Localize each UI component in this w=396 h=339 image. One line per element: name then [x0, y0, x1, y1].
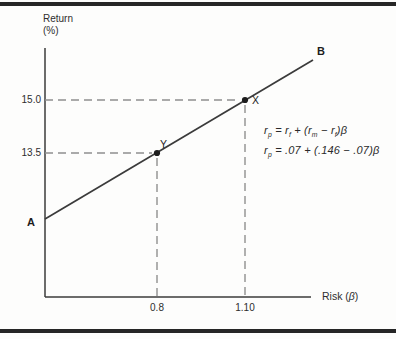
- x-tick-1.10: 1.10: [230, 302, 260, 313]
- chart-canvas: [0, 0, 396, 339]
- equation-capm-numeric: rp = .07 + (.146 − .07)β: [264, 144, 380, 158]
- y-axis-title: Return (%): [43, 13, 73, 37]
- x-axis-title-pre: Risk (: [322, 290, 349, 302]
- y-axis-title-line1: Return: [43, 13, 73, 25]
- eq2-body: = .07 + (.146 − .07): [272, 144, 373, 156]
- eq1-close-beta: )β: [337, 124, 347, 136]
- x-axis-title: Risk (β): [322, 290, 358, 302]
- point-y-dot: [154, 150, 160, 156]
- y-tick-13.5: 13.5: [11, 147, 41, 158]
- security-market-line: [45, 60, 313, 219]
- point-b-label: B: [317, 45, 325, 57]
- capm-figure: Return (%) 15.0 13.5 0.8 1.10 A B Y X rp…: [0, 0, 396, 339]
- point-x-dot: [242, 97, 248, 103]
- x-axis-title-post: ): [355, 290, 359, 302]
- x-tick-0.8: 0.8: [142, 302, 172, 313]
- eq1-minus: −: [318, 124, 331, 136]
- eq1-plus-paren: + (: [291, 124, 308, 136]
- point-a-label: A: [27, 216, 35, 228]
- equation-capm-general: rp = rf + (rm − rf)β: [264, 124, 347, 138]
- point-y-label: Y: [160, 138, 167, 150]
- eq2-beta: β: [373, 144, 379, 156]
- y-axis-title-line2: (%): [43, 25, 73, 37]
- point-x-label: X: [252, 94, 259, 106]
- eq1-equals: =: [272, 124, 285, 136]
- y-tick-15.0: 15.0: [11, 94, 41, 105]
